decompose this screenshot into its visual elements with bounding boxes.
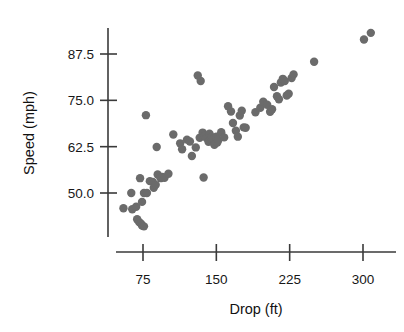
data-point (136, 174, 144, 182)
data-point (188, 152, 196, 160)
data-point (169, 130, 177, 138)
x-tick-label: 150 (205, 272, 228, 287)
data-point (152, 181, 160, 189)
data-point (289, 70, 297, 78)
data-point (310, 58, 318, 66)
data-point (360, 35, 368, 43)
data-point (140, 222, 148, 230)
plot-canvas: 50.062.575.087.5 75150225300 Drop (ft) S… (0, 0, 404, 332)
data-points-layer (119, 29, 375, 231)
data-point (234, 132, 242, 140)
data-point (192, 143, 200, 151)
data-point (119, 204, 127, 212)
data-point (199, 173, 207, 181)
data-point (229, 119, 237, 127)
y-tick-label: 62.5 (68, 140, 94, 155)
x-tick-label: 300 (352, 272, 375, 287)
x-tick-label: 75 (135, 272, 150, 287)
data-point (138, 198, 146, 206)
x-axis-title: Drop (ft) (229, 301, 282, 317)
y-axis-title: Speed (mph) (21, 91, 37, 175)
x-axis-ticks: 75150225300 (135, 244, 374, 287)
y-axis-ticks: 50.062.575.087.5 (68, 47, 117, 201)
data-point (220, 133, 228, 141)
data-point (227, 107, 235, 115)
y-tick-label: 50.0 (68, 186, 94, 201)
x-tick-label: 225 (278, 272, 301, 287)
data-point (284, 89, 292, 97)
data-point (268, 105, 276, 113)
data-point (178, 145, 186, 153)
data-point (275, 95, 283, 103)
data-point (241, 124, 249, 132)
data-point (367, 29, 375, 37)
y-tick-label: 75.0 (68, 93, 94, 108)
data-point (143, 189, 151, 197)
y-tick-label: 87.5 (68, 47, 94, 62)
data-point (152, 143, 160, 151)
scatter-plot-figure: 50.062.575.087.5 75150225300 Drop (ft) S… (0, 0, 404, 332)
data-point (238, 107, 246, 115)
data-point (164, 170, 172, 178)
data-point (127, 189, 135, 197)
data-point (142, 111, 150, 119)
data-point (196, 77, 204, 85)
